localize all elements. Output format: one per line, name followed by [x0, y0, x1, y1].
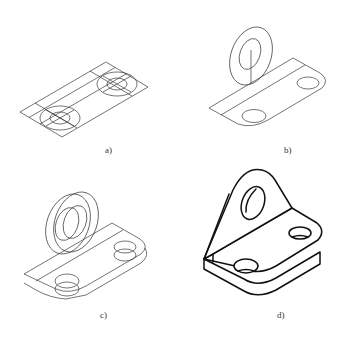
panel-b-label: b) [284, 145, 292, 155]
panel-d-label: d) [277, 310, 285, 320]
panel-b-drawing [209, 21, 326, 126]
panel-a-label: a) [105, 145, 112, 155]
panel-a-drawing [20, 62, 148, 137]
panel-c-drawing [24, 186, 147, 299]
front-hole [242, 110, 266, 123]
lug-inner-ellipse [235, 36, 265, 73]
panel-c-label: c) [100, 310, 107, 320]
back-hole [297, 77, 319, 89]
left-hole-ellipses [40, 106, 80, 130]
panel-d-drawing [204, 169, 322, 294]
isometric-construction-figure: a) b) c) d) [0, 0, 346, 338]
base-plate-outline [20, 62, 148, 137]
right-hole-ellipses [97, 72, 137, 96]
